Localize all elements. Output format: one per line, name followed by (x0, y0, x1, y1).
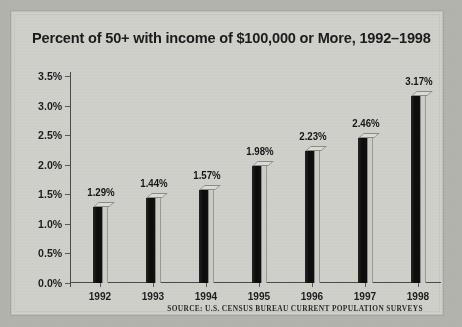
x-axis-category-label: 1992 (88, 290, 111, 302)
bar-value-label: 3.17% (405, 75, 432, 87)
x-axis-tick (312, 283, 313, 287)
bar-top-face (146, 193, 168, 198)
bar-side-face (420, 92, 426, 283)
x-axis-category-label: 1993 (141, 290, 164, 302)
y-axis-tick (65, 224, 70, 225)
x-axis-tick (153, 283, 154, 287)
x-axis-category-label: 1997 (353, 290, 376, 302)
x-axis-category-label: 1995 (247, 290, 270, 302)
x-axis-tick (206, 283, 207, 287)
y-axis-tick (65, 76, 70, 77)
x-axis-category-label: 1996 (300, 290, 323, 302)
bar-side-face (367, 134, 373, 283)
y-axis-label: 0.5% (38, 247, 62, 259)
bar-side-face (155, 194, 161, 283)
x-axis-tick (418, 283, 419, 287)
bar-value-label: 1.57% (193, 169, 220, 181)
bar-top-face (93, 202, 115, 207)
y-axis-label: 2.5% (38, 129, 62, 141)
y-axis-label: 3.0% (38, 100, 62, 112)
bar-side-face (261, 162, 267, 283)
y-axis-label: 3.5% (38, 70, 62, 82)
bar-front-face (358, 138, 367, 283)
y-axis-tick (65, 194, 70, 195)
y-axis-label: 0.0% (38, 277, 62, 289)
y-axis-tick (65, 135, 70, 136)
x-axis-tick (259, 283, 260, 287)
y-axis-tick (65, 106, 70, 107)
y-axis-label: 2.0% (38, 159, 62, 171)
bar-value-label: 2.46% (352, 117, 379, 129)
y-axis-line (70, 72, 71, 287)
bar-value-label: 2.23% (299, 130, 326, 142)
source-note: SOURCE: U.S. CENSUS BUREAU CURRENT POPUL… (167, 304, 423, 313)
bar-top-face (199, 185, 221, 190)
y-axis-tick (65, 283, 70, 284)
bar-side-face (208, 186, 214, 283)
bar-front-face (252, 166, 261, 283)
bar-side-face (102, 203, 108, 283)
chart-screenshot: Percent of 50+ with income of $100,000 o… (0, 0, 462, 327)
bar-top-face (305, 146, 327, 151)
x-axis-tick (100, 283, 101, 287)
bar-front-face (199, 190, 208, 283)
bar-front-face (93, 207, 102, 283)
x-axis-tick (365, 283, 366, 287)
x-axis-category-label: 1994 (194, 290, 217, 302)
plot-area: 0.0%0.5%1.0%1.5%2.0%2.5%3.0%3.5%1.29%199… (70, 76, 441, 283)
chart-title: Percent of 50+ with income of $100,000 o… (32, 29, 431, 47)
chart-panel: Percent of 50+ with income of $100,000 o… (11, 11, 443, 315)
bar-value-label: 1.29% (87, 186, 114, 198)
bar-top-face (411, 91, 433, 96)
bar-value-label: 1.44% (140, 177, 167, 189)
y-axis-tick (65, 165, 70, 166)
bar-front-face (411, 96, 420, 283)
bar-front-face (305, 151, 314, 283)
y-axis-tick (65, 253, 70, 254)
x-axis-category-label: 1998 (406, 290, 429, 302)
bar-side-face (314, 147, 320, 283)
bar-top-face (252, 161, 274, 166)
bar-top-face (358, 133, 380, 138)
bar-front-face (146, 198, 155, 283)
bar-value-label: 1.98% (246, 145, 273, 157)
y-axis-label: 1.5% (38, 188, 62, 200)
y-axis-label: 1.0% (38, 218, 62, 230)
